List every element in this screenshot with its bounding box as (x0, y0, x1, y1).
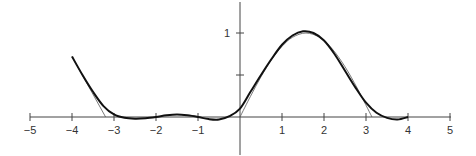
y-ticks: 1 (224, 27, 244, 75)
y-tick-label: 1 (224, 27, 230, 39)
x-ticks: −5−4−3−2−112345 (24, 113, 453, 136)
x-tick-label: −5 (24, 124, 37, 136)
chart: −5−4−3−2−112345 1 (0, 0, 476, 156)
x-tick-label: 5 (447, 124, 453, 136)
target-function-line (72, 33, 372, 117)
x-tick-label: −3 (108, 124, 121, 136)
x-tick-label: 2 (321, 124, 327, 136)
x-tick-label: 4 (405, 124, 411, 136)
x-tick-label: −4 (66, 124, 79, 136)
x-tick-label: 3 (363, 124, 369, 136)
x-tick-label: −1 (192, 124, 205, 136)
x-tick-label: −2 (150, 124, 163, 136)
x-tick-label: 1 (279, 124, 285, 136)
